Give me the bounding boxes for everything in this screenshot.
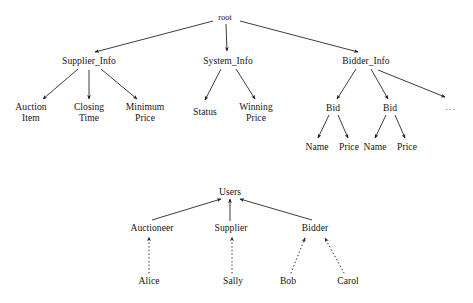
- node-supplier-info: Supplier_Info: [62, 56, 116, 66]
- node-sally: Sally: [223, 276, 243, 286]
- node-bidder: Bidder: [302, 223, 328, 233]
- users-hierarchy-dotted-edges: [149, 237, 344, 273]
- edge-bidder-info-bid-1: [337, 69, 356, 99]
- edge-carol-bidder: [325, 238, 344, 273]
- edge-auctioneer-users: [152, 199, 221, 220]
- edge-bidder-users: [240, 199, 312, 220]
- node-auctioneer: Auctioneer: [130, 223, 173, 233]
- edge-bid-2-price: [395, 115, 405, 138]
- edge-bid-1-price: [338, 115, 348, 138]
- node-alice: Alice: [138, 276, 159, 286]
- edge-system-info-status: [205, 69, 221, 100]
- node-price-2: Price: [397, 142, 417, 152]
- node-carol: Carol: [337, 276, 359, 286]
- node-auction-item: AuctionItem: [15, 101, 46, 124]
- node-price-1: Price: [339, 142, 359, 152]
- edge-bidder-info-bid-2: [371, 69, 388, 99]
- node-minimum-price: MinimumPrice: [126, 101, 165, 124]
- edge-root-system-info: [226, 24, 227, 51]
- edge-supplier-info-minimum-price: [101, 69, 137, 99]
- node-name-1: Name: [305, 142, 328, 152]
- node-closing-time: ClosingTime: [74, 101, 104, 124]
- edge-bid-2-name: [375, 115, 386, 138]
- edge-bid-1-name: [318, 115, 329, 138]
- node-name-2: Name: [363, 142, 386, 152]
- node-supplier: Supplier: [215, 223, 248, 233]
- edge-bidder-info-ellipsis: [378, 70, 445, 97]
- node-bidder-info: Bidder_Info: [342, 56, 389, 66]
- node-bid-1: Bid: [326, 103, 340, 113]
- node-system-info: System_Info: [203, 56, 253, 66]
- node-root: root: [218, 14, 232, 23]
- node-users: Users: [219, 187, 241, 197]
- edge-root-bidder-info: [240, 21, 358, 52]
- edge-root-supplier-info: [95, 21, 213, 52]
- node-status: Status: [193, 107, 217, 117]
- edge-system-info-winning-price: [236, 69, 255, 99]
- node-bid-2: Bid: [383, 103, 397, 113]
- node-bob: Bob: [280, 276, 296, 286]
- node-winning-price: WinningPrice: [239, 101, 273, 124]
- node-ellipsis: ...: [445, 102, 457, 112]
- edge-supplier-info-auction-item: [43, 69, 78, 99]
- users-hierarchy-solid-edges: [152, 199, 312, 221]
- edge-bob-bidder: [291, 238, 305, 273]
